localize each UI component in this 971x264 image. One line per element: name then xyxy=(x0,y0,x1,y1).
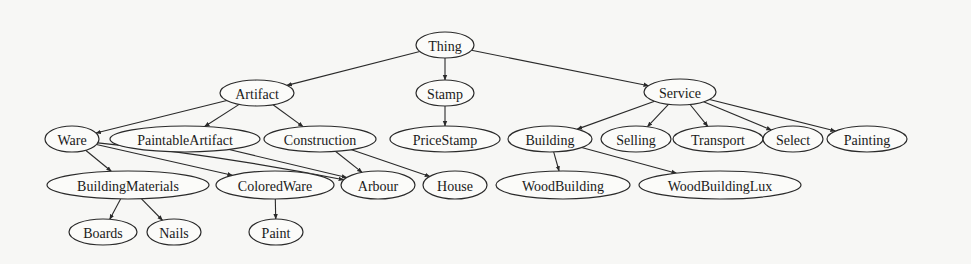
node-coloredware: ColoredWare xyxy=(216,171,334,199)
edge-service-to-transport xyxy=(690,104,708,126)
nodes-layer: ThingArtifactStampServiceWarePaintableAr… xyxy=(45,32,907,245)
node-label: Select xyxy=(776,133,810,148)
node-boards: Boards xyxy=(69,219,137,245)
node-label: Boards xyxy=(83,226,123,241)
node-stamp: Stamp xyxy=(416,80,474,106)
node-label: WoodBuilding xyxy=(522,179,604,194)
node-label: Building xyxy=(525,133,574,148)
node-thing: Thing xyxy=(416,32,474,58)
node-pricestamp: PriceStamp xyxy=(390,126,500,152)
edge-buildingmaterials-to-boards xyxy=(110,199,121,219)
node-woodbuilding: WoodBuilding xyxy=(496,171,630,199)
node-buildingmaterials: BuildingMaterials xyxy=(47,171,209,199)
node-label: Thing xyxy=(428,39,461,54)
node-label: WoodBuildingLux xyxy=(668,179,773,194)
edge-thing-to-service xyxy=(471,50,648,85)
node-label: Service xyxy=(659,86,701,101)
node-paint: Paint xyxy=(249,219,303,245)
edge-service-to-building xyxy=(577,101,654,129)
node-transport: Transport xyxy=(673,126,763,152)
node-house: House xyxy=(423,171,487,199)
node-nails: Nails xyxy=(147,219,201,245)
node-label: Painting xyxy=(844,133,891,148)
edge-thing-to-artifact xyxy=(287,51,420,85)
node-label: Artifact xyxy=(235,87,279,102)
node-ware: Ware xyxy=(45,126,99,152)
node-painting: Painting xyxy=(827,126,907,152)
node-service: Service xyxy=(644,79,716,105)
edge-artifact-to-construction xyxy=(273,105,303,127)
node-label: Nails xyxy=(159,226,189,241)
node-label: Arbour xyxy=(358,179,399,194)
node-label: Ware xyxy=(57,133,86,148)
edge-building-to-woodbuilding xyxy=(554,152,559,171)
node-construction: Construction xyxy=(264,126,376,152)
node-label: PaintableArtifact xyxy=(137,133,233,148)
node-label: ColoredWare xyxy=(238,179,312,194)
node-building: Building xyxy=(508,126,592,152)
node-artifact: Artifact xyxy=(220,80,294,106)
node-label: Construction xyxy=(284,133,356,148)
node-arbour: Arbour xyxy=(341,171,415,199)
node-select: Select xyxy=(763,126,823,152)
node-label: Transport xyxy=(691,133,745,148)
node-paintableartifact: PaintableArtifact xyxy=(110,126,260,152)
node-label: Paint xyxy=(262,226,291,241)
class-hierarchy-diagram: ThingArtifactStampServiceWarePaintableAr… xyxy=(0,0,971,264)
edge-artifact-to-paintableartifact xyxy=(205,104,240,126)
node-woodbuildinglux: WoodBuildingLux xyxy=(639,171,801,199)
edge-construction-to-arbour xyxy=(336,151,362,172)
edge-ware-to-buildingmaterials xyxy=(86,150,112,171)
node-label: BuildingMaterials xyxy=(77,179,179,194)
edge-service-to-selling xyxy=(647,104,668,126)
node-label: Stamp xyxy=(427,87,463,102)
node-label: Selling xyxy=(616,133,656,148)
edge-buildingmaterials-to-nails xyxy=(142,199,163,220)
node-label: House xyxy=(437,179,473,194)
node-selling: Selling xyxy=(601,126,671,152)
node-label: PriceStamp xyxy=(413,133,478,148)
